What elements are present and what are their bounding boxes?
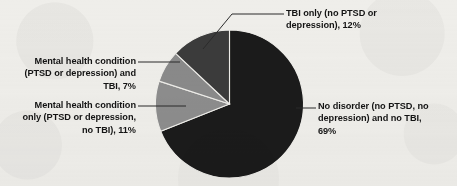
pie-label-tbi-only: TBI only (no PTSD or depression), 12%	[286, 7, 452, 32]
pie-label-no-disorder: No disorder (no PTSD, no depression) and…	[318, 100, 456, 137]
pie-label-mental-health-and-tbi: Mental health condition (PTSD or depress…	[4, 55, 136, 92]
pie-chart-figure: TBI only (no PTSD or depression), 12% No…	[0, 0, 457, 186]
pie-label-mental-health-only: Mental health condition only (PTSD or de…	[2, 99, 136, 136]
